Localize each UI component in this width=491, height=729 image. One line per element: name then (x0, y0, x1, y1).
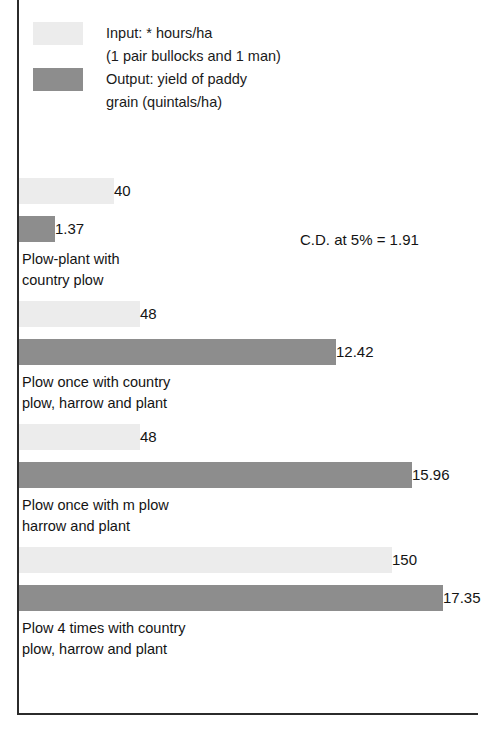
bar-value-input: 40 (114, 178, 138, 204)
bar-track-input: 48 (19, 424, 491, 450)
bar-input (19, 301, 140, 327)
bar-input (19, 424, 140, 450)
bar-track-output: 1.37 (19, 216, 491, 242)
bar-output (19, 216, 55, 242)
legend-swatch-input-icon (33, 22, 83, 45)
bar-value-output: 15.96 (412, 462, 457, 488)
bar-value-input: 150 (392, 547, 424, 573)
bar-group-label: Plow once with country plow, harrow and … (22, 372, 491, 414)
bar-group-label: Plow-plant with country plow (22, 249, 491, 291)
bar-track-input: 40 (19, 178, 491, 204)
bar-track-output: 15.96 (19, 462, 491, 488)
bar-output (19, 462, 412, 488)
legend-item-output: Output: yield of paddy grain (quintals/h… (33, 68, 473, 114)
bar-input (19, 547, 392, 573)
bar-track-output: 12.42 (19, 339, 491, 365)
bar-track-output: 17.35 (19, 585, 491, 611)
bar-input (19, 178, 114, 204)
bar-group-label: Plow once with m plow harrow and plant (22, 495, 491, 537)
bar-group: 150 17.35 Plow 4 times with country plow… (0, 547, 491, 660)
bar-output (19, 339, 336, 365)
bar-track-input: 48 (19, 301, 491, 327)
bar-track-input: 150 (19, 547, 491, 573)
bar-value-output: 17.35 (443, 585, 488, 611)
bar-gap (0, 327, 491, 339)
bar-group: 48 12.42 Plow once with country plow, ha… (0, 301, 491, 414)
bar-gap (0, 450, 491, 462)
bar-chart-figure: Input: * hours/ha (1 pair bullocks and 1… (0, 0, 491, 729)
legend-item-input: Input: * hours/ha (1 pair bullocks and 1… (33, 22, 473, 68)
bar-gap (0, 204, 491, 216)
bar-group: 48 15.96 Plow once with m plow harrow an… (0, 424, 491, 537)
legend-swatch-output-icon (33, 68, 83, 91)
bar-value-input: 48 (140, 301, 164, 327)
bar-gap (0, 573, 491, 585)
legend-label-output: Output: yield of paddy grain (quintals/h… (106, 68, 473, 114)
legend-label-input: Input: * hours/ha (1 pair bullocks and 1… (106, 22, 473, 68)
bottom-border-rule (17, 713, 478, 715)
bar-value-output: 1.37 (55, 216, 91, 242)
bar-value-input: 48 (140, 424, 164, 450)
bar-groups-container: 40 1.37 Plow-plant with country plow 48 … (0, 178, 491, 670)
bar-value-output: 12.42 (336, 339, 381, 365)
bar-group-label: Plow 4 times with country plow, harrow a… (22, 618, 491, 660)
chart-legend: Input: * hours/ha (1 pair bullocks and 1… (33, 22, 473, 114)
bar-group: 40 1.37 Plow-plant with country plow (0, 178, 491, 291)
bar-output (19, 585, 443, 611)
